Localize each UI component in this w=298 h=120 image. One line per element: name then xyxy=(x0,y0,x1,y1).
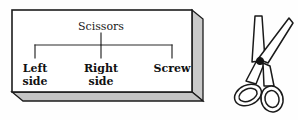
figure-canvas: Scissors Left side Right side Screw xyxy=(0,0,298,120)
tree-leaf-label-left-side-line1: Left xyxy=(23,62,48,75)
tree-leaf-label-screw-line1: Screw xyxy=(154,62,191,75)
box-bottom-panel xyxy=(12,92,203,101)
tree-root-label: Scissors xyxy=(78,20,124,33)
tree-leaf-label-right-side-line2: side xyxy=(88,75,113,88)
scissors-illustration xyxy=(231,16,293,114)
tree-leaf-label-left-side-line2: side xyxy=(22,75,47,88)
scissors-pivot-screw-icon xyxy=(256,57,263,64)
figure-svg: Scissors Left side Right side Screw xyxy=(0,0,298,120)
box-right-panel xyxy=(192,10,203,101)
tree-leaf-label-right-side-line1: Right xyxy=(84,62,119,75)
scissors-shank-right xyxy=(263,63,274,86)
scissors-shank-left xyxy=(246,62,264,84)
